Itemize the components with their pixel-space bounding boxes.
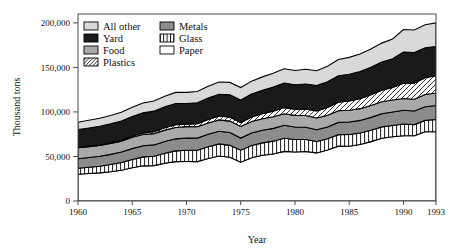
x-axis-title: Year: [248, 234, 267, 245]
legend-item-metals: Metals: [160, 21, 208, 32]
y-tick-label: 50,000: [45, 152, 70, 162]
y-tick-label: 150,000: [41, 63, 71, 73]
legend-item-paper: Paper: [160, 45, 203, 56]
x-tick-label: 1993: [427, 207, 446, 217]
y-tick-label: 100,000: [41, 107, 71, 117]
legend-label: Paper: [179, 45, 203, 56]
y-tick-label: 0: [66, 196, 71, 206]
legend-label: Yard: [103, 33, 124, 44]
legend-label: Plastics: [103, 57, 135, 68]
legend-swatch-solid-mid-gray: [84, 46, 98, 54]
x-tick-label: 1985: [340, 207, 359, 217]
stacked-area-chart: 050,000100,000150,000200,000 19601965197…: [0, 0, 461, 249]
legend-label: All other: [103, 21, 141, 32]
legend-swatch-solid-black: [84, 34, 98, 42]
x-tick-label: 1980: [286, 207, 305, 217]
x-tick-label: 1990: [394, 207, 413, 217]
legend-item-glass: Glass: [160, 33, 202, 44]
x-tick-label: 1975: [232, 207, 251, 217]
legend-swatch-solid-white: [160, 46, 174, 54]
legend-swatch-diagonal-hatch: [84, 58, 98, 66]
legend-item-yard: Yard: [84, 33, 124, 44]
y-axis-title: Thousand tons: [11, 78, 22, 137]
legend-swatch-solid-dark-gray: [160, 22, 174, 30]
x-tick-label: 1965: [123, 207, 142, 217]
legend-item-food: Food: [84, 45, 125, 56]
chart-figure: 050,000100,000150,000200,000 19601965197…: [0, 0, 461, 249]
x-tick-label: 1960: [69, 207, 88, 217]
legend-swatch-solid-light-gray: [84, 22, 98, 30]
legend-label: Food: [103, 45, 125, 56]
y-tick-label: 200,000: [41, 18, 71, 28]
legend-item-plastics: Plastics: [84, 57, 135, 68]
legend-label: Glass: [179, 33, 202, 44]
legend-label: Metals: [179, 21, 208, 32]
legend-item-all-other: All other: [84, 21, 141, 32]
x-tick-label: 1970: [177, 207, 196, 217]
legend-swatch-vertical-stripes: [160, 34, 174, 42]
